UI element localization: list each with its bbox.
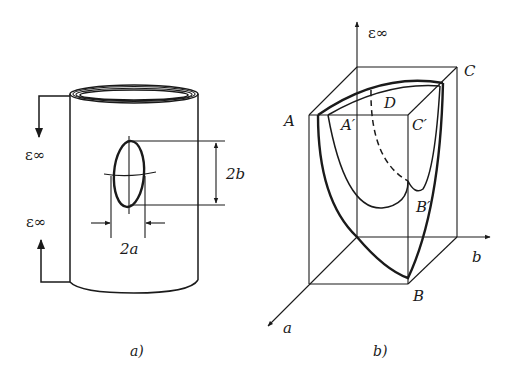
- cylinder-figure: 2b 2a ε∞ ε∞ a): [25, 85, 245, 359]
- cylinder-body: [70, 94, 198, 293]
- load-bottom-label: ε∞: [26, 213, 46, 231]
- point-A-prime-label: A′: [339, 116, 356, 134]
- point-C-prime-label: C′: [412, 116, 427, 134]
- axis-epsilon-label: ε∞: [368, 24, 388, 42]
- point-B-prime-label: B′: [415, 198, 431, 216]
- dimension-2b: 2b: [130, 141, 245, 205]
- point-B-label: B: [412, 287, 424, 305]
- dimension-2a: 2a: [91, 176, 165, 258]
- crack-height-label: 2b: [225, 165, 245, 183]
- point-D-label: D: [383, 94, 396, 112]
- elliptical-crack: [104, 136, 156, 214]
- axis-a-label: a: [283, 319, 292, 337]
- load-arrow-bottom: ε∞: [26, 213, 70, 282]
- point-C-label: C: [464, 62, 476, 80]
- crack-width-label: 2a: [119, 240, 139, 258]
- caption-a: a): [130, 343, 144, 359]
- figure-canvas: 2b 2a ε∞ ε∞ a) ε∞ b a: [0, 0, 510, 386]
- caption-b: b): [373, 343, 387, 359]
- parameter-space-figure: ε∞ b a: [268, 22, 490, 359]
- axis-b-label: b: [472, 248, 482, 266]
- point-A-label: A: [282, 112, 295, 130]
- cylinder-top-rings: [70, 85, 198, 103]
- load-arrow-top: ε∞: [25, 96, 70, 164]
- load-top-label: ε∞: [25, 146, 45, 164]
